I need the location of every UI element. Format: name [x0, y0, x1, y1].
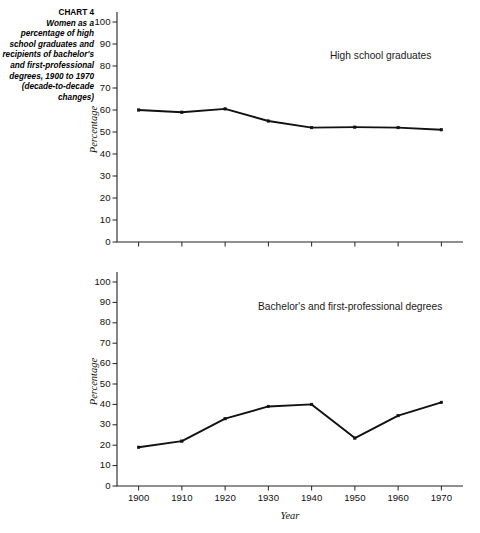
x-tick-label: 1920: [205, 493, 245, 503]
plot-area-top: Percentage High school graduates 0102030…: [0, 0, 480, 262]
y-tick-label: 30: [85, 419, 111, 429]
y-tick-label: 20: [85, 193, 111, 203]
y-tick-label: 70: [85, 338, 111, 348]
chart-panel-bachelors-degrees: Percentage Year Bachelor's and first-pro…: [0, 258, 480, 533]
x-axis-title-year: Year: [260, 510, 320, 521]
y-tick-label: 100: [85, 17, 111, 27]
series-annotation-high-school-graduates: High school graduates: [330, 50, 431, 61]
y-tick-label: 10: [85, 215, 111, 225]
y-tick-label: 80: [85, 317, 111, 327]
y-tick-label: 50: [85, 379, 111, 389]
y-tick-label: 0: [85, 481, 111, 491]
y-tick-label: 10: [85, 460, 111, 470]
x-tick-label: 1940: [292, 493, 332, 503]
x-tick-label: 1930: [248, 493, 288, 503]
y-tick-label: 40: [85, 399, 111, 409]
plot-area-bottom: Percentage Year Bachelor's and first-pro…: [0, 258, 480, 533]
y-tick-label: 50: [85, 127, 111, 137]
y-tick-label: 0: [85, 237, 111, 247]
y-tick-label: 90: [85, 39, 111, 49]
y-tick-label: 30: [85, 171, 111, 181]
x-tick-label: 1900: [119, 493, 159, 503]
x-tick-label: 1950: [335, 493, 375, 503]
y-tick-label: 100: [85, 277, 111, 287]
chart-panel-high-school-graduates: Percentage High school graduates 0102030…: [0, 0, 480, 262]
y-tick-label: 60: [85, 105, 111, 115]
y-tick-label: 60: [85, 358, 111, 368]
series-annotation-bachelors-degrees: Bachelor's and first-professional degree…: [258, 301, 442, 312]
x-tick-label: 1960: [378, 493, 418, 503]
y-tick-label: 20: [85, 440, 111, 450]
x-tick-label: 1970: [421, 493, 461, 503]
y-tick-label: 40: [85, 149, 111, 159]
y-tick-label: 80: [85, 61, 111, 71]
plot-svg-top: [0, 0, 480, 262]
y-tick-label: 90: [85, 297, 111, 307]
x-tick-label: 1910: [162, 493, 202, 503]
y-tick-label: 70: [85, 83, 111, 93]
